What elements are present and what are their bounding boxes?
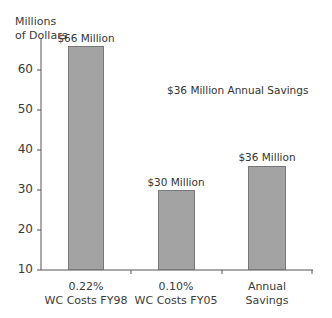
y-tick-label: 30 <box>3 182 33 196</box>
category-label-fy05: 0.10% WC Costs FY05 <box>126 280 226 308</box>
category-label-line1: Annual <box>217 280 317 294</box>
category-label-line2: WC Costs FY05 <box>126 294 226 308</box>
category-label-line2: WC Costs FY98 <box>36 294 136 308</box>
savings-annotation: $36 Million Annual Savings <box>167 84 308 96</box>
y-tick-label: 50 <box>3 102 33 116</box>
bar-wc-costs-fy98 <box>68 46 104 270</box>
x-ticks <box>131 270 312 274</box>
category-label-line1: 0.22% <box>36 280 136 294</box>
bar-value-label: $30 Million <box>136 176 216 188</box>
bar-value-label: $36 Million <box>227 151 307 163</box>
bar-wc-costs-fy05 <box>158 190 195 270</box>
y-tick-label: 10 <box>3 262 33 276</box>
bar-value-label: $66 Million <box>46 32 126 44</box>
category-label-savings: Annual Savings <box>217 280 317 308</box>
category-label-line2: Savings <box>217 294 317 308</box>
y-tick-label: 60 <box>3 62 33 76</box>
category-label-line1: 0.10% <box>126 280 226 294</box>
bar-annual-savings <box>248 166 286 270</box>
y-tick-label: 40 <box>3 142 33 156</box>
y-tick-label: 20 <box>3 222 33 236</box>
y-ticks <box>37 70 41 270</box>
y-axis-title-line1: Millions <box>15 15 67 29</box>
category-label-fy98: 0.22% WC Costs FY98 <box>36 280 136 308</box>
